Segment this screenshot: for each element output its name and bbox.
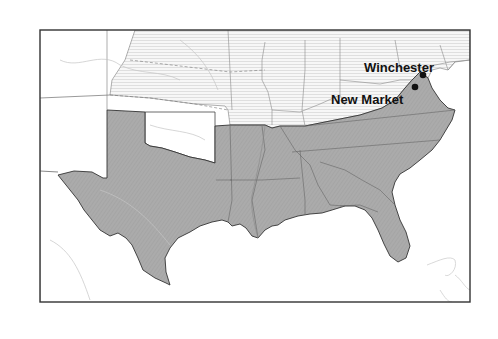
city-marker-new-market [412,84,419,91]
city-label-new-market: New Market [331,92,404,107]
civil-war-map: Winchester New Market [0,0,498,339]
city-label-winchester: Winchester [364,60,434,75]
